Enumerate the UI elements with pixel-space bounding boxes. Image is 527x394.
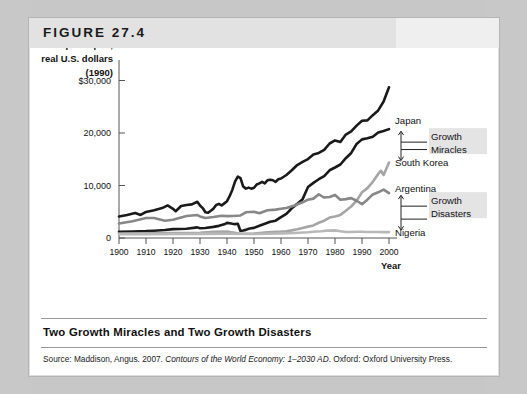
- x-axis-title: Year: [381, 260, 401, 271]
- x-axis-tick-label: 1930: [190, 247, 209, 257]
- y-axis-tick-label: 0: [106, 233, 111, 243]
- source-publisher: . Oxford: Oxford University Press.: [329, 354, 453, 364]
- y-axis-tick-label: 10,000: [83, 181, 111, 191]
- annotation-bracket-growth-disasters: GrowthDisasters: [398, 192, 487, 230]
- x-axis-tick-label: 1980: [325, 247, 344, 257]
- x-axis-tick-label: 1910: [136, 247, 155, 257]
- series-label-japan: Japan: [395, 115, 421, 126]
- series-line-argentina: [119, 190, 389, 224]
- series-line-japan: [119, 129, 389, 232]
- caption-divider-top: [41, 318, 487, 319]
- x-axis-tick-label: 1900: [109, 247, 128, 257]
- x-axis-tick-label: 2000: [379, 247, 398, 257]
- svg-text:Growth: Growth: [431, 195, 462, 206]
- figure-header-bar: FIGURE 27.4: [29, 18, 499, 48]
- source-author: Maddison, Angus. 2007.: [72, 354, 166, 364]
- svg-text:Growth: Growth: [431, 131, 462, 142]
- x-axis-tick-label: 1940: [217, 247, 236, 257]
- x-axis-tick-label: 1960: [271, 247, 290, 257]
- source-title: Contours of the World Economy: 1–2030 AD: [165, 354, 328, 364]
- svg-text:Disasters: Disasters: [431, 208, 471, 219]
- y-axis-label-line: real U.S. dollars: [41, 53, 113, 64]
- x-axis-tick-label: 1950: [244, 247, 263, 257]
- svg-text:Miracles: Miracles: [431, 144, 467, 155]
- y-axis-tick-label: 20,000: [83, 128, 111, 138]
- gdp-per-capita-line-chart: GDP per capita,real U.S. dollars(1990)$3…: [29, 48, 499, 316]
- figure-number-label: FIGURE 27.4: [43, 25, 146, 40]
- series-line-united-states: [119, 87, 389, 216]
- caption-divider-bottom: [41, 347, 487, 348]
- chart-area: GDP per capita,real U.S. dollars(1990)$3…: [29, 48, 499, 316]
- y-axis-label-line: GDP per capita,: [42, 48, 113, 50]
- x-axis-tick-label: 1990: [352, 247, 371, 257]
- source-prefix: Source:: [43, 354, 72, 364]
- figure-card: FIGURE 27.4 GDP per capita,real U.S. dol…: [28, 17, 500, 377]
- figure-caption: Two Growth Miracles and Two Growth Disas…: [43, 326, 312, 338]
- figure-source: Source: Maddison, Angus. 2007. Contours …: [43, 354, 487, 365]
- y-axis-tick-label: $30,000: [78, 76, 111, 86]
- x-axis-tick-label: 1970: [298, 247, 317, 257]
- x-axis-tick-label: 1920: [163, 247, 182, 257]
